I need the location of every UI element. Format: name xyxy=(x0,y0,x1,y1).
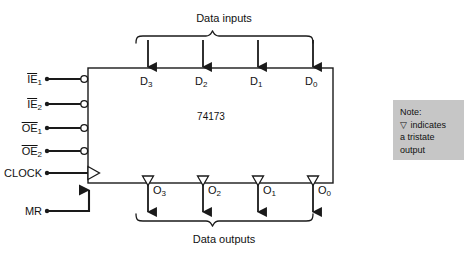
pin-lead-IE2 xyxy=(45,101,88,108)
port-label-O1: O1 xyxy=(263,185,276,196)
data-inputs-caption: Data inputs xyxy=(196,13,252,24)
pin-lead-MR xyxy=(45,190,89,213)
circuit-diagram-canvas: IE1 IE2 OE1 OE2 CLOCK MR D3 D2 D1 D0 O3 … xyxy=(0,0,474,258)
pin-label-IE1: IE1 xyxy=(27,73,42,85)
tristate-triangle-O3 xyxy=(143,176,154,186)
note-line-3: output xyxy=(400,144,458,157)
port-label-O2: O2 xyxy=(208,185,221,196)
note-line-1-text: indicates xyxy=(411,120,447,130)
port-label-D0: D0 xyxy=(305,76,317,87)
port-label-O3: O3 xyxy=(153,185,166,196)
note-title: Note: xyxy=(400,106,458,119)
port-label-D2: D2 xyxy=(195,76,207,87)
port-label-D3: D3 xyxy=(140,76,152,87)
tristate-triangle-O0 xyxy=(308,176,319,186)
chip-part-number: 74173 xyxy=(197,112,225,122)
inversion-bubble-IE1 xyxy=(81,76,88,83)
tristate-triangle-O2 xyxy=(198,176,209,186)
note-line-2: a tristate xyxy=(400,131,458,144)
note-panel: Note: ▽ indicates a tristate output xyxy=(393,100,464,160)
pin-label-OE1: OE1 xyxy=(22,122,42,134)
pin-label-OE2: OE2 xyxy=(22,145,42,157)
tristate-symbol-icon: ▽ xyxy=(400,120,408,130)
data-inputs-brace xyxy=(136,31,313,43)
inversion-bubble-OE1 xyxy=(81,125,88,132)
chip-body-outline xyxy=(88,68,333,183)
inversion-bubble-OE2 xyxy=(81,148,88,155)
pin-lead-OE2 xyxy=(45,148,88,155)
pin-lead-CLOCK xyxy=(45,167,100,180)
note-line-1: ▽ indicates xyxy=(400,119,458,132)
data-outputs-brace xyxy=(136,214,313,226)
inversion-bubble-IE2 xyxy=(81,101,88,108)
pin-label-MR: MR xyxy=(25,206,42,217)
pin-lead-OE1 xyxy=(45,125,88,132)
pin-lead-IE1 xyxy=(45,76,88,83)
port-label-D1: D1 xyxy=(250,76,262,87)
tristate-triangle-O1 xyxy=(253,176,264,186)
clock-edge-triangle xyxy=(88,167,100,180)
mr-routing-line xyxy=(47,190,89,211)
port-label-O0: O0 xyxy=(318,185,331,196)
pin-label-CLOCK: CLOCK xyxy=(4,168,42,179)
data-outputs-caption: Data outputs xyxy=(193,234,255,245)
pin-label-IE2: IE2 xyxy=(27,98,42,110)
